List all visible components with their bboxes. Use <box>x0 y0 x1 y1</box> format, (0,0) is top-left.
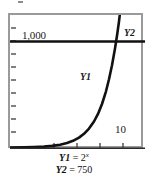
caption-y2-variable: Y2 <box>56 164 67 175</box>
y-axis-ticks <box>11 28 16 132</box>
y-axis-max-label: 1,000 <box>22 30 46 41</box>
caption-y1-equals: = 2 <box>70 152 86 163</box>
series-label-y1: Y1 <box>80 72 91 82</box>
caption-y2-equals: = 750 <box>67 164 93 175</box>
x-axis-tick-label-10: 10 <box>115 124 126 135</box>
stray-tick-mark <box>18 1 23 3</box>
caption-line-y2: Y2 = 750 <box>0 164 148 176</box>
caption-y1-variable: Y1 <box>59 152 70 163</box>
series-label-y2: Y2 <box>124 28 135 38</box>
exponential-intersection-figure: 1,000 Y1 Y2 10 Y1 = 2x Y2 = 750 <box>0 0 148 184</box>
figure-caption: Y1 = 2x Y2 = 750 <box>0 152 148 175</box>
caption-line-y1: Y1 = 2x <box>0 152 148 164</box>
caption-y1-exponent: x <box>86 151 89 159</box>
